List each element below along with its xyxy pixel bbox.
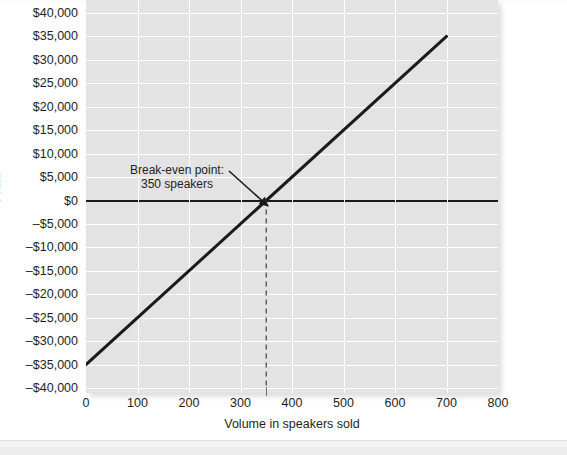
annotation-line-1: Break-even point: [112, 163, 242, 177]
y-tick-label: $0 [64, 195, 78, 207]
y-tick-label: –$25,000 [26, 312, 78, 324]
y-tick-label: –$30,000 [26, 335, 78, 347]
y-tick-label: –$40,000 [26, 382, 78, 394]
y-tick-label: $40,000 [33, 7, 78, 19]
y-tick-label: $10,000 [33, 148, 78, 160]
y-tick-label: –$5,000 [33, 218, 78, 230]
y-tick-label: –$15,000 [26, 265, 78, 277]
break-even-annotation: Break-even point: 350 speakers [112, 163, 242, 191]
y-axis-title: Profit [0, 184, 3, 202]
plot-area [86, 0, 498, 393]
x-tick-mark-breakeven [266, 387, 267, 396]
y-tick-label: $5,000 [40, 171, 78, 183]
plot-svg-layer [86, 0, 498, 393]
annotation-line-2: 350 speakers [112, 177, 242, 191]
y-tick-label: $25,000 [33, 77, 78, 89]
y-tick-label: $30,000 [33, 54, 78, 66]
y-tick-label: $20,000 [33, 101, 78, 113]
y-tick-label: $15,000 [33, 124, 78, 136]
y-tick-label: $35,000 [33, 30, 78, 42]
y-tick-label: –$20,000 [26, 288, 78, 300]
y-tick-label: –$10,000 [26, 241, 78, 253]
y-tick-label: –$35,000 [26, 359, 78, 371]
breakeven-chart-figure: $40,000$35,000$30,000$25,000$20,000$15,0… [0, 0, 567, 455]
page-bottom-band-shadow [0, 447, 567, 455]
annotation-arrow-icon [228, 168, 276, 214]
x-tick-label: 800 [468, 396, 528, 410]
x-axis-title: Volume in speakers sold [86, 417, 498, 431]
